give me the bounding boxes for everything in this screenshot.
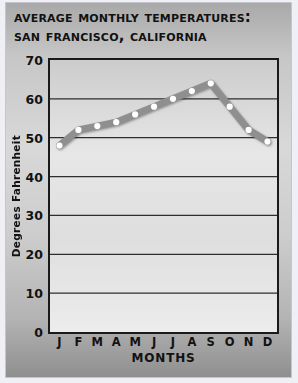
x-tick-label: M [92,335,103,349]
data-point-marker [189,88,195,94]
data-point-marker [75,127,81,133]
x-tick-label: J [152,335,156,349]
data-point-marker [151,104,157,110]
temperature-line [60,83,268,145]
y-axis-ticks: 706050403020100 [6,58,46,334]
data-point-marker [94,123,100,129]
data-point-marker [132,111,138,117]
plot-svg [50,60,277,332]
x-tick-label: A [187,335,196,349]
y-tick-label: 20 [26,247,43,262]
x-tick-label: S [207,335,215,349]
plot-area [48,58,279,334]
x-tick-label: N [244,335,254,349]
y-tick-label: 0 [34,325,43,340]
y-tick-label: 40 [26,169,43,184]
data-point-marker [227,104,233,110]
chart-title: Average Monthly Temperatures: San Franci… [14,8,286,46]
chart-title-line2: San Francisco, California [14,27,286,46]
x-tick-label: J [57,335,61,349]
chart-title-line1: Average Monthly Temperatures: [14,8,286,27]
y-tick-label: 50 [26,130,43,145]
x-tick-label: M [129,335,140,349]
data-point-marker [208,80,214,86]
x-tick-label: A [112,335,121,349]
data-point-marker [245,127,251,133]
x-tick-label: F [74,335,82,349]
data-point-marker [113,119,119,125]
x-tick-label: D [263,335,273,349]
chart-panel: Average Monthly Temperatures: San Franci… [6,3,291,377]
data-point-marker [56,142,62,148]
y-tick-label: 30 [26,208,43,223]
x-tick-label: O [225,335,235,349]
y-tick-label: 60 [26,91,43,106]
x-axis-ticks: JFMAMJJASOND [48,335,279,350]
y-tick-label: 10 [26,286,43,301]
x-axis-title: MONTHS [48,351,279,365]
data-point-marker [264,139,270,145]
y-tick-label: 70 [26,53,43,68]
data-point-marker [170,96,176,102]
x-tick-label: J [171,335,175,349]
